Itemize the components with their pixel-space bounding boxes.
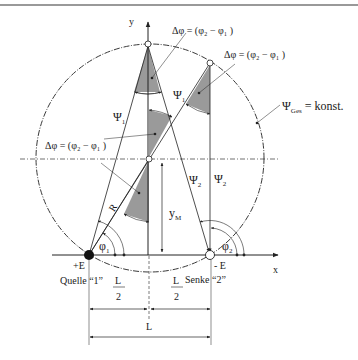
source-charge-label: +E [73, 260, 85, 271]
x-axis-label: x [273, 264, 278, 275]
shaded-sector-middle [149, 110, 172, 157]
half-L-left-num: L [115, 275, 121, 286]
psi2-mid-label: Ψ2 [189, 173, 202, 189]
radius-label: R [106, 201, 119, 213]
source-sink-diagram: y x Δφ = (φ₂ − φ₁ ) Δφ = (φ₂ − φ₁ ) Δφ =… [0, 0, 358, 360]
right-circle-point [207, 60, 213, 66]
psi1-mid-label: Ψ1 [173, 88, 186, 104]
phi1-dot-2 [123, 254, 126, 257]
top-leader [152, 33, 186, 78]
ym-label: yM [169, 206, 182, 222]
psi-ges-leader [257, 105, 280, 123]
source-name-label: Quelle “1” [60, 275, 103, 286]
sink-point [206, 251, 215, 260]
psi1-left-label: Ψ1 [113, 110, 126, 126]
half-L-right-num: L [173, 275, 179, 286]
half-L-right-den: 2 [174, 291, 179, 302]
phi2-dot-2 [243, 254, 246, 257]
delta-phi-right-label: Δφ = (φ₂ − φ₁ ) [224, 49, 285, 61]
phi1-dot-1 [114, 254, 117, 257]
middle-leader [104, 134, 155, 139]
psi2-right-label: Ψ2 [214, 172, 227, 188]
y-axis-label: y [129, 16, 134, 27]
psi-ges-label: ΨGes = konst. [282, 99, 344, 115]
phi2-dot-1 [236, 254, 239, 257]
phi2-label: φ2 [222, 239, 233, 255]
delta-phi-top-label: Δφ = (φ₂ − φ₁ ) [172, 25, 233, 37]
midpoint [146, 156, 152, 162]
sink-name-label: Senke “2” [185, 274, 226, 285]
phi1-label: φ1 [99, 239, 110, 255]
shaded-sector-top [134, 46, 160, 92]
half-L-left-den: 2 [116, 291, 121, 302]
top-circle-point [145, 41, 151, 47]
lower-leader [101, 163, 139, 193]
L-label: L [146, 321, 152, 332]
delta-phi-left-label: Δφ = (φ₂ − φ₁ ) [45, 140, 106, 152]
sink-charge-label: - E [214, 260, 226, 271]
source-point [84, 250, 94, 260]
